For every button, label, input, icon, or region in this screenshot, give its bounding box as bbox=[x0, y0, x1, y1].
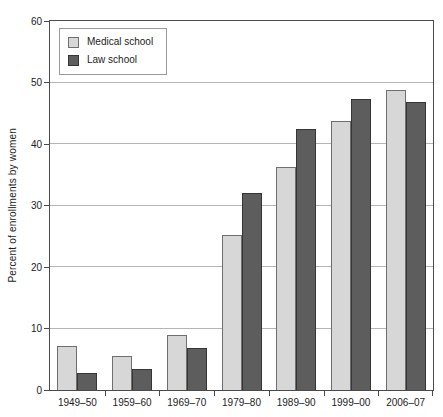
bar-groups bbox=[50, 21, 433, 390]
y-tick-20 bbox=[44, 267, 49, 268]
bar-law-school-1979-80 bbox=[242, 193, 262, 390]
y-tick-label-40: 40 bbox=[12, 139, 42, 150]
legend-label-medical-school: Medical school bbox=[87, 36, 153, 48]
plot-area: Medical schoolLaw school bbox=[49, 20, 434, 391]
bar-law-school-1989-90 bbox=[296, 129, 316, 390]
y-tick-50 bbox=[44, 82, 49, 83]
y-tick-0 bbox=[44, 390, 49, 391]
bar-law-school-1969-70 bbox=[187, 348, 207, 390]
bar-group-1949-50 bbox=[50, 21, 105, 390]
x-tick-label-2006-07: 2006–07 bbox=[371, 397, 441, 409]
y-tick-10 bbox=[44, 328, 49, 329]
bar-medical-school-2006-07 bbox=[386, 90, 406, 390]
x-tick-4 bbox=[269, 391, 270, 396]
y-tick-label-30: 30 bbox=[12, 200, 42, 211]
bar-medical-school-1989-90 bbox=[276, 167, 296, 390]
bar-group-1979-80 bbox=[214, 21, 269, 390]
legend-item-medical-school: Medical school bbox=[68, 36, 153, 48]
y-tick-label-50: 50 bbox=[12, 77, 42, 88]
x-tick-6 bbox=[378, 391, 379, 396]
bar-law-school-1999-00 bbox=[351, 99, 371, 390]
bar-law-school-2006-07 bbox=[406, 102, 426, 390]
bar-group-1959-60 bbox=[105, 21, 160, 390]
bar-medical-school-1999-00 bbox=[331, 121, 351, 390]
legend: Medical schoolLaw school bbox=[59, 28, 167, 75]
legend-label-law-school: Law school bbox=[87, 54, 137, 66]
y-tick-label-60: 60 bbox=[12, 16, 42, 27]
x-tick-7 bbox=[432, 391, 433, 396]
bar-group-1989-90 bbox=[269, 21, 324, 390]
x-tick-1 bbox=[105, 391, 106, 396]
y-tick-60 bbox=[44, 21, 49, 22]
bar-chart-figure: Percent of enrollments by women Medical … bbox=[0, 0, 443, 417]
legend-item-law-school: Law school bbox=[68, 54, 153, 66]
bar-law-school-1959-60 bbox=[132, 369, 152, 390]
y-tick-label-10: 10 bbox=[12, 323, 42, 334]
y-tick-label-20: 20 bbox=[12, 262, 42, 273]
y-tick-30 bbox=[44, 205, 49, 206]
bar-medical-school-1959-60 bbox=[112, 356, 132, 390]
bar-law-school-1949-50 bbox=[77, 373, 97, 390]
bar-group-1969-70 bbox=[159, 21, 214, 390]
y-tick-label-0: 0 bbox=[12, 385, 42, 396]
x-tick-5 bbox=[324, 391, 325, 396]
legend-swatch-medical-school bbox=[68, 37, 79, 48]
bar-medical-school-1949-50 bbox=[57, 346, 77, 390]
legend-swatch-law-school bbox=[68, 55, 79, 66]
y-tick-40 bbox=[44, 144, 49, 145]
x-tick-3 bbox=[214, 391, 215, 396]
bar-medical-school-1979-80 bbox=[222, 235, 242, 390]
bar-group-1999-00 bbox=[324, 21, 379, 390]
x-tick-2 bbox=[159, 391, 160, 396]
bar-group-2006-07 bbox=[378, 21, 433, 390]
bar-medical-school-1969-70 bbox=[167, 335, 187, 390]
